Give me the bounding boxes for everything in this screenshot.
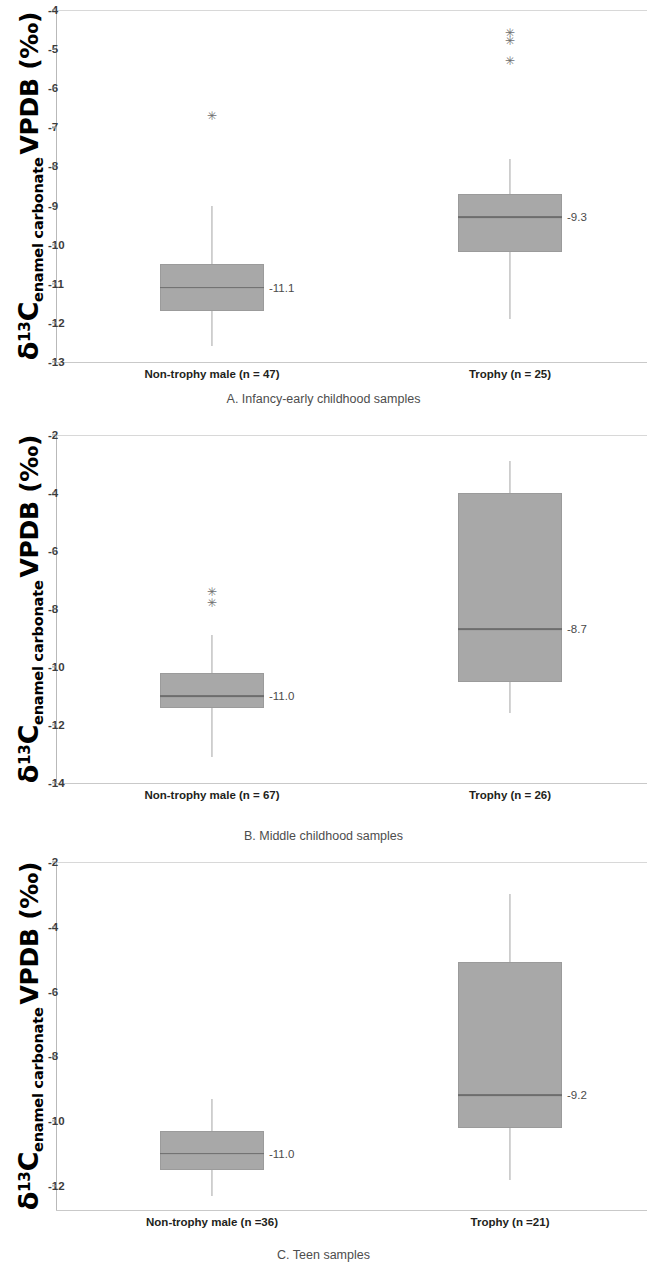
y-tick-mark bbox=[52, 322, 56, 323]
y-tick-mark bbox=[52, 550, 56, 551]
y-axis-subscript-enamel-carbonate: enamel carbonate bbox=[31, 157, 46, 301]
y-tick-mark bbox=[52, 88, 56, 89]
plot-area-A bbox=[56, 10, 647, 362]
y-tick-mark bbox=[52, 205, 56, 206]
whisker-lower bbox=[509, 1128, 510, 1180]
whisker-upper bbox=[211, 1099, 212, 1131]
y-tick-mark bbox=[52, 861, 56, 862]
median-line bbox=[160, 695, 264, 697]
x-tick-label: Non-trophy male (n =36) bbox=[146, 1216, 278, 1228]
box-C-1 bbox=[160, 1131, 264, 1170]
whisker-lower bbox=[211, 1170, 212, 1196]
y-tick-mark bbox=[52, 666, 56, 667]
box-A-2 bbox=[458, 194, 562, 253]
y-axis-superscript-13: 13 bbox=[18, 744, 33, 765]
y-tick-mark bbox=[52, 926, 56, 927]
y-tick-mark bbox=[52, 991, 56, 992]
y-axis-superscript-13: 13 bbox=[18, 1171, 33, 1192]
median-line bbox=[458, 216, 562, 218]
panel-caption-A: A. Infancy-early childhood samples bbox=[0, 392, 647, 406]
box-C-2 bbox=[458, 962, 562, 1127]
x-axis-line-C bbox=[56, 1210, 647, 1211]
x-axis-line-A bbox=[56, 362, 647, 363]
y-axis-vpdb-permil: VPDB (‰) bbox=[17, 435, 42, 581]
panel-C bbox=[0, 0, 647, 1]
y-tick-mark bbox=[52, 9, 56, 10]
median-line bbox=[458, 1094, 562, 1096]
y-tick-mark bbox=[52, 49, 56, 50]
panel-caption-B: B. Middle childhood samples bbox=[0, 829, 647, 843]
whisker-lower bbox=[211, 708, 212, 757]
y-tick-mark bbox=[52, 244, 56, 245]
x-tick-label: Trophy (n = 25) bbox=[469, 368, 551, 380]
x-axis-line-B bbox=[56, 783, 647, 784]
y-axis-subscript-enamel-carbonate: enamel carbonate bbox=[31, 1007, 46, 1151]
y-axis-subscript-enamel-carbonate: enamel carbonate bbox=[31, 580, 46, 724]
y-axis-delta-symbol: δ bbox=[15, 342, 42, 360]
box-B-2 bbox=[458, 493, 562, 682]
y-tick-mark bbox=[52, 127, 56, 128]
y-tick-mark bbox=[52, 782, 56, 783]
y-axis-vpdb-permil: VPDB (‰) bbox=[17, 12, 42, 158]
outlier-marker: ✳ bbox=[207, 597, 217, 609]
y-tick-mark bbox=[52, 434, 56, 435]
whisker-upper bbox=[509, 461, 510, 493]
y-tick-mark bbox=[52, 283, 56, 284]
y-axis-title: δ13Cenamel carbonateVPDB (‰) bbox=[15, 862, 42, 1210]
median-value-label: -9.3 bbox=[567, 211, 587, 223]
median-value-label: -8.7 bbox=[567, 623, 587, 635]
x-tick-label: Trophy (n = 26) bbox=[469, 789, 551, 801]
y-tick-mark bbox=[52, 1056, 56, 1057]
y-tick-mark bbox=[52, 492, 56, 493]
median-value-label: -11.0 bbox=[269, 690, 294, 702]
whisker-upper bbox=[211, 206, 212, 265]
median-value-label: -9.2 bbox=[567, 1089, 587, 1101]
box-B-1 bbox=[160, 673, 264, 708]
y-axis-title-area: δ13Cenamel carbonateVPDB (‰) bbox=[0, 862, 56, 1210]
whisker-lower bbox=[509, 252, 510, 318]
outlier-marker: ✳ bbox=[505, 55, 515, 67]
boxplot-figure: δ13Cenamel carbonateVPDB (‰)-4-5-6-7-8-9… bbox=[0, 0, 647, 1271]
y-axis-delta-symbol: δ bbox=[15, 765, 42, 783]
y-tick-mark bbox=[52, 361, 56, 362]
x-tick-label: Trophy (n =21) bbox=[471, 1216, 550, 1228]
y-axis-element-c: C bbox=[15, 725, 42, 744]
y-axis-title: δ13Cenamel carbonateVPDB (‰) bbox=[15, 12, 42, 360]
y-tick-mark bbox=[52, 166, 56, 167]
median-line bbox=[160, 1153, 264, 1155]
whisker-upper bbox=[211, 635, 212, 673]
y-tick-mark bbox=[52, 608, 56, 609]
y-tick-mark bbox=[52, 724, 56, 725]
y-axis-delta-symbol: δ bbox=[15, 1192, 42, 1210]
outlier-marker: ✳ bbox=[505, 35, 515, 47]
whisker-upper bbox=[509, 894, 510, 962]
y-tick-mark bbox=[52, 1185, 56, 1186]
median-value-label: -11.1 bbox=[269, 282, 294, 294]
median-value-label: -11.0 bbox=[269, 1148, 294, 1160]
y-tick-mark bbox=[52, 1121, 56, 1122]
whisker-upper bbox=[509, 159, 510, 194]
y-axis-element-c: C bbox=[15, 1152, 42, 1171]
y-axis-superscript-13: 13 bbox=[18, 321, 33, 342]
outlier-marker: ✳ bbox=[207, 110, 217, 122]
x-tick-label: Non-trophy male (n = 47) bbox=[144, 368, 279, 380]
whisker-lower bbox=[211, 311, 212, 346]
y-axis-element-c: C bbox=[15, 302, 42, 321]
x-tick-label: Non-trophy male (n = 67) bbox=[144, 789, 279, 801]
y-axis-title: δ13Cenamel carbonateVPDB (‰) bbox=[15, 435, 42, 783]
median-line bbox=[160, 287, 264, 289]
y-axis-vpdb-permil: VPDB (‰) bbox=[17, 862, 42, 1008]
panel-caption-C: C. Teen samples bbox=[0, 1248, 647, 1262]
whisker-lower bbox=[509, 682, 510, 714]
median-line bbox=[458, 628, 562, 630]
y-axis-title-area: δ13Cenamel carbonateVPDB (‰) bbox=[0, 10, 56, 362]
